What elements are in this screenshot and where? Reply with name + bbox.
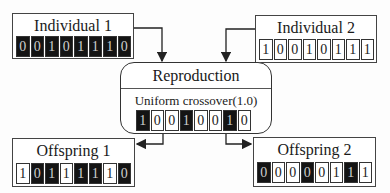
bit-cell: 1 [346,39,360,60]
bit-cell: 1 [89,163,103,184]
reproduction-title: Reproduction [121,67,271,85]
bit-cell: 1 [359,162,373,183]
offspring-2-bits: 00000111 [257,162,373,183]
bit-cell: 0 [274,39,288,60]
bit-cell: 1 [103,163,117,184]
bit-cell: 1 [103,36,117,57]
bit-cell: 1 [74,36,88,57]
bit-cell: 1 [303,39,317,60]
individual-1-title: Individual 1 [13,17,133,35]
bit-cell: 1 [180,110,194,131]
bit-cell: 1 [60,163,74,184]
bit-cell: 1 [16,163,30,184]
bit-cell: 0 [31,163,45,184]
bit-cell: 0 [286,162,300,183]
bit-cell: 0 [60,36,74,57]
offspring-1-box: Offspring 1 10111110 [12,138,135,187]
bit-cell: 1 [89,36,103,57]
individual-1-box: Individual 1 00101110 [12,13,134,59]
bit-cell: 1 [223,110,237,131]
bit-cell: 0 [194,110,208,131]
offspring-2-title: Offspring 2 [254,141,375,159]
bit-cell: 0 [165,110,179,131]
bit-cell: 0 [301,162,315,183]
individual-2-bits: 10010111 [259,39,375,60]
individual-2-title: Individual 2 [256,19,376,37]
individual-2-box: Individual 2 10010111 [255,15,377,63]
bit-cell: 0 [31,36,45,57]
bit-cell: 0 [315,162,329,183]
crossover-mask-bits: 10010010 [136,110,252,131]
bit-cell: 1 [45,36,59,57]
bit-cell: 0 [118,36,132,57]
offspring-1-title: Offspring 1 [13,142,134,160]
bit-cell: 1 [361,39,375,60]
bit-cell: 1 [136,110,150,131]
bit-cell: 1 [259,39,273,60]
offspring-1-bits: 10111110 [16,163,132,184]
bit-cell: 1 [74,163,88,184]
bit-cell: 0 [317,39,331,60]
crossover-operator-label: Uniform crossover(1.0) [121,93,271,109]
bit-cell: 0 [238,110,252,131]
bit-cell: 0 [288,39,302,60]
bit-cell: 0 [257,162,271,183]
bit-cell: 0 [118,163,132,184]
bit-cell: 1 [330,162,344,183]
bit-cell: 0 [16,36,30,57]
bit-cell: 0 [272,162,286,183]
bit-cell: 1 [332,39,346,60]
bit-cell: 1 [45,163,59,184]
reproduction-box: Reproduction Uniform crossover(1.0) 1001… [120,62,272,134]
individual-1-bits: 00101110 [16,36,132,57]
offspring-2-box: Offspring 2 00000111 [253,137,376,187]
bit-cell: 0 [151,110,165,131]
bit-cell: 0 [209,110,223,131]
bit-cell: 1 [344,162,358,183]
reproduction-divider [121,88,271,89]
